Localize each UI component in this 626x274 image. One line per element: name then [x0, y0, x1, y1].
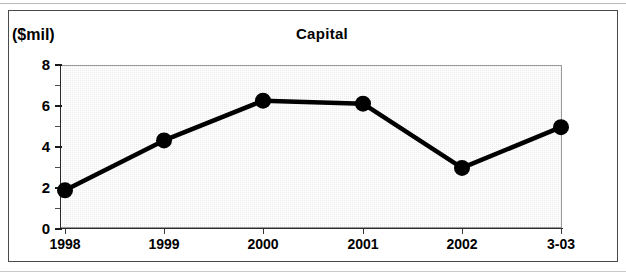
y-tick-8	[55, 64, 62, 66]
x-tick-label-1998: 1998	[25, 236, 105, 252]
chart-title-text: Capital	[296, 25, 348, 42]
x-tick-2002	[462, 229, 463, 234]
chart-figure: ($mil) Capital 8 6 4 2 0 1998 1999 2000 …	[0, 0, 626, 274]
y-tick-0	[55, 228, 62, 230]
x-tick-2000	[263, 229, 264, 234]
y-tick-label-8: 8	[20, 56, 50, 73]
y-tick-minor-3	[55, 167, 60, 168]
x-tick-3-03	[561, 229, 562, 234]
x-tick-1999	[164, 229, 165, 234]
y-tick-minor-1	[55, 208, 60, 209]
y-tick-minor-5	[55, 126, 60, 127]
y-tick-label-2: 2	[20, 179, 50, 196]
x-tick-label-3-03: 3-03	[521, 236, 601, 252]
x-tick-2001	[363, 229, 364, 234]
y-tick-label-6: 6	[20, 97, 50, 114]
y-tick-minor-7	[55, 85, 60, 86]
plot-area	[60, 65, 562, 228]
x-tick-label-2002: 2002	[422, 236, 502, 252]
scan-artifact-line-top	[0, 3, 626, 4]
y-tick-label-4: 4	[20, 138, 50, 155]
scan-artifact-line-bottom	[0, 271, 626, 272]
y-tick-6	[55, 105, 62, 107]
x-axis-line	[60, 228, 563, 229]
x-tick-label-2001: 2001	[323, 236, 403, 252]
x-tick-label-2000: 2000	[223, 236, 303, 252]
x-tick-label-1999: 1999	[124, 236, 204, 252]
y-tick-label-0: 0	[20, 220, 50, 237]
y-tick-4	[55, 146, 62, 148]
x-tick-1998	[65, 229, 66, 234]
y-tick-2	[55, 187, 62, 189]
chart-title: Capital	[0, 25, 626, 42]
